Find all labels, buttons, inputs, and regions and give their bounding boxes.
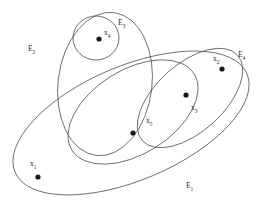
element-label-x2: x2 <box>213 55 219 65</box>
set-label-E3: E3 <box>118 19 125 29</box>
element-dot-x5 <box>130 130 135 135</box>
set-outline-group <box>0 7 261 217</box>
set-label-E2: E2 <box>28 45 35 55</box>
element-dot-x1 <box>35 174 40 179</box>
element-label-x5: x5 <box>146 117 152 127</box>
set-circle-E3 <box>73 16 119 60</box>
venn-diagram-canvas: E1 E2 E3 E4 x1 x2 x3 x4 x5 <box>0 0 261 217</box>
element-label-x4: x4 <box>104 29 110 39</box>
set-label-E1: E1 <box>186 182 193 192</box>
element-dot-x3 <box>183 92 188 97</box>
set-ellipse-E1 <box>0 21 261 217</box>
element-label-x1: x1 <box>30 160 36 170</box>
set-label-E4: E4 <box>238 51 245 61</box>
element-label-x3: x3 <box>191 104 197 114</box>
element-dot-x2 <box>219 66 224 71</box>
venn-diagram-svg <box>0 0 261 217</box>
element-dot-x4 <box>96 36 101 41</box>
